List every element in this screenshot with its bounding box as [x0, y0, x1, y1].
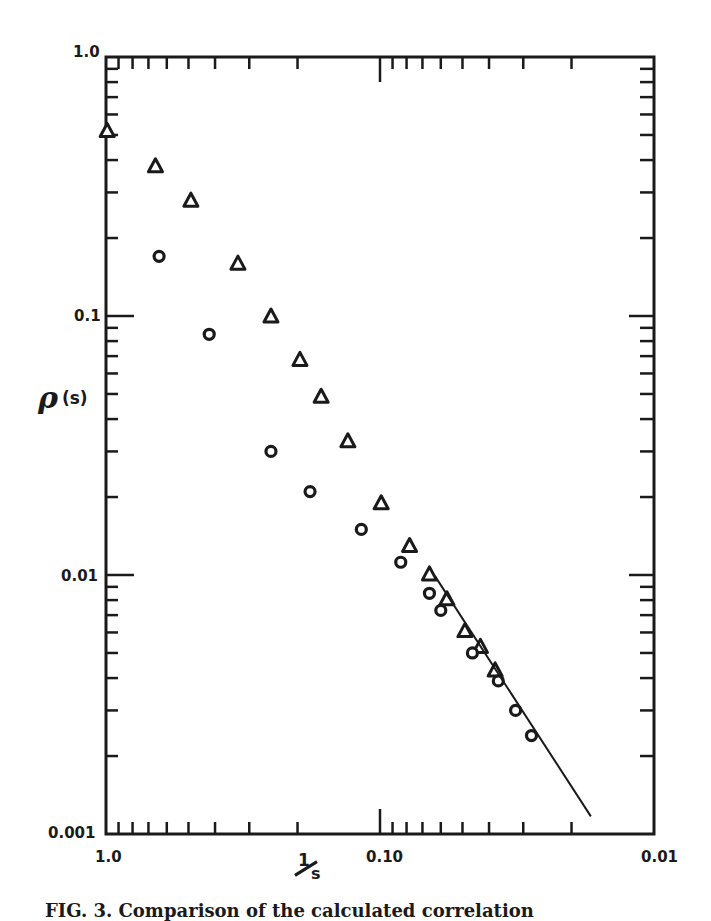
triangle-marker — [314, 389, 328, 402]
triangle-marker — [100, 124, 114, 137]
x-tick-label-1: 1.0 — [95, 850, 122, 865]
circle-marker — [204, 329, 214, 339]
x-tick-label-0-01: 0.01 — [641, 850, 678, 865]
y-tick-label-0-001: 0.001 — [48, 826, 95, 841]
series-triangles — [100, 124, 502, 676]
circle-marker — [154, 251, 164, 261]
axes-frame — [106, 57, 654, 834]
x-tick-label-0-10: 0.10 — [366, 850, 403, 865]
circle-marker — [266, 446, 276, 456]
y-tick-label-0-1: 0.1 — [74, 309, 101, 324]
y-axis-label-arg: (s) — [62, 388, 88, 408]
data-series — [100, 124, 591, 817]
triangle-marker — [341, 434, 355, 447]
series-circles — [154, 251, 536, 740]
figure-caption: FIG. 3. Comparison of the calculated cor… — [45, 900, 534, 921]
triangle-marker — [422, 567, 436, 580]
plot-border — [106, 57, 654, 834]
circle-marker — [436, 605, 446, 615]
triangle-marker — [231, 256, 245, 269]
triangle-marker — [148, 159, 162, 172]
y-tick-label-0-01: 0.01 — [61, 569, 98, 584]
x-axis-label: 1 s — [293, 850, 323, 884]
y-tick-label-1: 1.0 — [73, 45, 100, 60]
axis-ticks — [106, 57, 654, 834]
circle-marker — [305, 487, 315, 497]
triangle-marker — [264, 309, 278, 322]
series-fit-line — [435, 576, 591, 816]
triangle-marker — [184, 193, 198, 206]
circle-marker — [396, 557, 406, 567]
triangle-marker — [293, 352, 307, 365]
x-axis-label-denominator: s — [311, 864, 321, 883]
circle-marker — [356, 524, 366, 534]
triangle-marker — [403, 538, 417, 551]
y-axis-label-symbol: ρ — [38, 380, 58, 415]
y-axis-label: ρ(s) — [38, 380, 88, 415]
fit-line — [435, 576, 591, 816]
circle-marker — [424, 588, 434, 598]
triangle-marker — [374, 496, 388, 509]
circle-marker — [467, 648, 477, 658]
